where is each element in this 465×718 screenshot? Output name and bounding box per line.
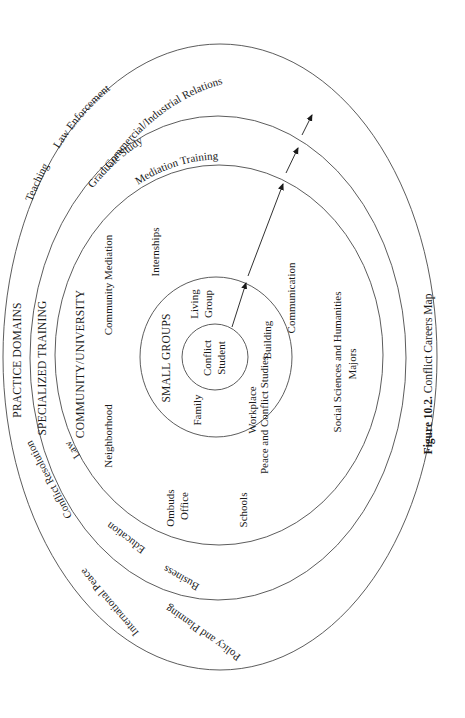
career-path-arrows: [232, 115, 312, 327]
label-mediation-training: Mediation Training: [133, 149, 219, 186]
arrow-4: [302, 115, 312, 135]
label-education: Education: [104, 520, 147, 557]
label-policy-and-planning: Policy and Planning: [163, 603, 243, 664]
label-community-mediation: Community Mediation: [102, 235, 114, 336]
label-schools: Schools: [237, 493, 249, 528]
caption-number: Figure 10.2.: [422, 396, 434, 454]
label-building: Building: [261, 321, 273, 360]
figure-caption: Figure 10.2. Conflict Careers Map: [422, 294, 434, 455]
caption-title: Conflict Careers Map: [422, 294, 434, 394]
arrow-2: [248, 184, 283, 276]
label-internships: Internships: [149, 228, 161, 277]
small-groups-title: SMALL GROUPS: [160, 313, 172, 402]
label-peace-and-conflict-studies: Peace and Conflict Studies: [258, 356, 270, 474]
community-university-title: COMMUNITY/UNIVERSITY: [74, 290, 86, 438]
label-social-sciences-humanities: Social Sciences and Humanities: [331, 292, 343, 433]
specialized-training-title: SPECIALIZED TRAINING: [36, 300, 48, 435]
conflict-careers-diagram: Teaching Law Enforcement Commercial/Indu…: [0, 0, 465, 718]
label-teaching: Teaching: [23, 160, 51, 202]
label-workplace: Workplace: [246, 386, 258, 433]
arrow-3: [286, 148, 298, 173]
label-conflict: Conflict: [201, 340, 213, 376]
label-law-enforcement: Law Enforcement: [50, 82, 112, 150]
label-group: Group: [202, 290, 214, 318]
label-communication: Communication: [285, 263, 297, 334]
label-business: Business: [161, 563, 201, 593]
practice-domains-title: PRACTICE DOMAINS: [11, 302, 23, 417]
label-international-peace: International Peace: [77, 566, 141, 639]
label-family: Family: [191, 394, 203, 425]
label-law: Law: [62, 439, 82, 461]
label-living: Living: [188, 289, 200, 318]
label-neighborhood: Neighborhood: [102, 404, 114, 468]
label-majors: Majors: [346, 348, 358, 379]
label-office: Office: [178, 492, 190, 520]
arrow-1: [232, 283, 246, 327]
label-ombuds: Ombuds: [164, 489, 176, 526]
label-student: Student: [215, 341, 227, 375]
